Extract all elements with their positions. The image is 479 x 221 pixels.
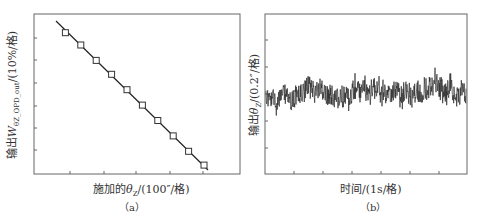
data-marker — [93, 57, 99, 63]
data-marker — [124, 87, 130, 93]
ylabel-var: θ — [248, 108, 261, 115]
data-marker — [170, 133, 176, 139]
ylabel-prefix: 输出 — [6, 137, 19, 159]
panel-b-caption: （b） — [360, 199, 386, 214]
panel-b-frame — [265, 14, 467, 174]
data-marker — [78, 42, 84, 48]
figure-canvas — [0, 0, 479, 221]
data-marker — [186, 148, 192, 154]
panel-b-noise-line — [266, 68, 466, 116]
data-marker — [201, 162, 207, 168]
panel-b-ylabel: 输出θZ/(0.2″/格) — [245, 35, 263, 155]
panel-a-ylabel: 输出WθZ_OPD_out/(10%/格) — [3, 25, 21, 165]
data-marker — [155, 118, 161, 124]
panel-a-frame — [34, 14, 240, 174]
xlabel-var: θ — [126, 183, 133, 196]
xlabel-prefix: 施加的 — [93, 183, 126, 196]
data-marker — [62, 30, 68, 36]
ylabel-suffix: /(0.2″/格) — [248, 54, 261, 103]
panel-a — [34, 14, 240, 174]
xlabel-suffix: /(100″/格) — [138, 183, 190, 196]
panel-a-caption: （a） — [119, 199, 145, 214]
data-marker — [139, 102, 145, 108]
panel-b-xlabel: 时间/(1s/格) — [340, 180, 402, 196]
ylabel-sub: Z — [255, 103, 263, 108]
ylabel-sub: θZ_OPD_out — [13, 82, 21, 126]
panel-a-xlabel: 施加的θZ/(100″/格) — [93, 180, 190, 198]
panel-b — [265, 14, 467, 174]
data-marker — [109, 71, 115, 77]
ylabel-prefix: 输出 — [248, 114, 261, 136]
ylabel-var: W — [6, 126, 19, 137]
ylabel-suffix: /(10%/格) — [6, 31, 19, 82]
